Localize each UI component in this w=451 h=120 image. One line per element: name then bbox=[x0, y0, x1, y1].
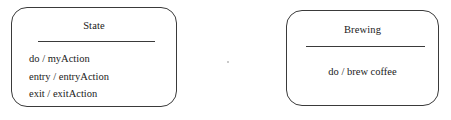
state-action-line: exit / exitAction bbox=[29, 85, 176, 103]
state-actions-compartment: do / myAction entry / entryAction exit /… bbox=[12, 50, 176, 103]
state-compartment-divider bbox=[306, 46, 425, 47]
state-name-label: State bbox=[12, 20, 176, 31]
state-action-line: do / myAction bbox=[29, 50, 176, 68]
state-compartment-divider bbox=[38, 41, 155, 42]
state-name-label: Brewing bbox=[287, 24, 438, 35]
state-node-state[interactable]: State do / myAction entry / entryAction … bbox=[11, 7, 177, 107]
state-action-line: do / brew coffee bbox=[287, 63, 438, 81]
diagram-canvas: State do / myAction entry / entryAction … bbox=[0, 0, 451, 120]
state-node-brewing[interactable]: Brewing do / brew coffee bbox=[286, 10, 439, 106]
state-actions-compartment: do / brew coffee bbox=[287, 63, 438, 81]
state-action-line: entry / entryAction bbox=[29, 68, 176, 86]
scan-artifact-speck bbox=[227, 61, 229, 63]
